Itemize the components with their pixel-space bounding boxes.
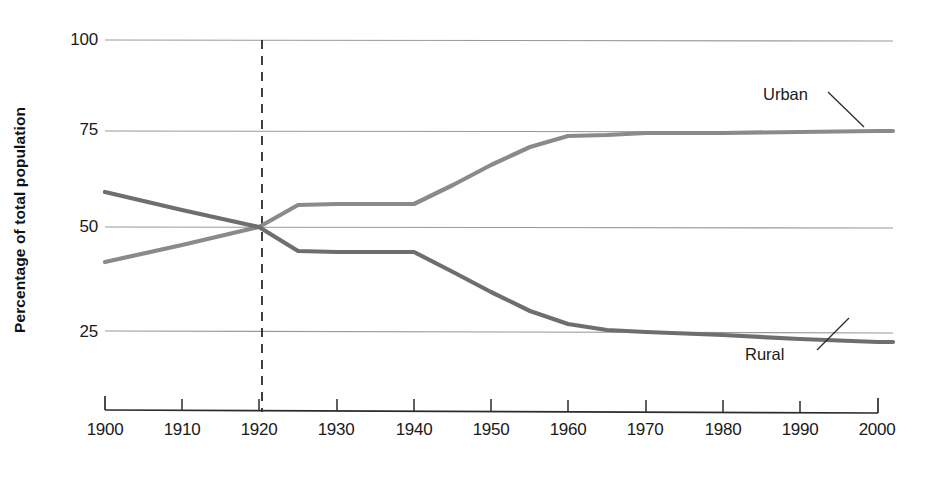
plot-area xyxy=(0,0,935,481)
urban-series-label: Urban xyxy=(763,85,808,104)
x-tick-label-1970: 1970 xyxy=(615,420,675,440)
series-urban xyxy=(105,131,893,262)
x-tick-label-1930: 1930 xyxy=(306,420,366,440)
x-tick-label-1980: 1980 xyxy=(693,420,753,440)
y-tick-label-25: 25 xyxy=(52,322,98,342)
x-tick-label-1940: 1940 xyxy=(384,420,444,440)
series-rural xyxy=(105,192,893,342)
x-tick-label-1950: 1950 xyxy=(461,420,521,440)
x-tick-label-1900: 1900 xyxy=(75,420,135,440)
rural-leader-line xyxy=(817,318,849,350)
rural-series-label: Rural xyxy=(745,345,784,364)
chart-figure: Percentage of total population 100 75 50… xyxy=(0,0,935,481)
x-axis xyxy=(105,396,878,413)
x-tick-label-1990: 1990 xyxy=(770,420,830,440)
x-tick-label-1920: 1920 xyxy=(229,420,289,440)
y-tick-label-75: 75 xyxy=(52,120,98,140)
x-tick-label-1960: 1960 xyxy=(538,420,598,440)
y-axis-label-container: Percentage of total population xyxy=(0,0,40,440)
y-tick-label-100: 100 xyxy=(52,30,98,50)
gridlines xyxy=(105,40,893,333)
urban-leader-line xyxy=(828,92,864,127)
gridline-50 xyxy=(105,227,893,228)
y-axis-label: Percentage of total population xyxy=(11,107,29,333)
x-tick-label-2000: 2000 xyxy=(847,420,907,440)
x-tick-label-1910: 1910 xyxy=(152,420,212,440)
gridline-25 xyxy=(105,331,893,333)
y-tick-label-50: 50 xyxy=(52,217,98,237)
gridline-100 xyxy=(105,40,893,41)
